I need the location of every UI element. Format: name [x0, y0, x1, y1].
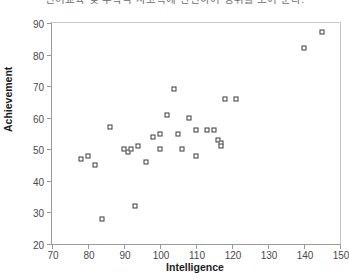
data-point — [233, 96, 238, 101]
x-axis-tick-label: 70 — [47, 250, 58, 261]
y-axis-tick-label: 70 — [33, 82, 44, 93]
data-point — [172, 87, 177, 92]
data-point — [179, 147, 184, 152]
data-point — [204, 128, 209, 133]
y-axis-tick: 40 — [47, 181, 52, 182]
x-axis-tick-label: 150 — [333, 250, 349, 261]
data-point — [158, 131, 163, 136]
data-point — [132, 204, 137, 209]
y-axis-tick: 80 — [47, 55, 52, 56]
data-point — [129, 147, 134, 152]
y-axis-tick: 50 — [47, 149, 52, 150]
x-axis-tick: 80 — [88, 244, 89, 249]
x-axis-tick: 110 — [196, 244, 197, 249]
y-axis-tick-label: 50 — [33, 145, 44, 156]
y-axis-tick: 90 — [47, 23, 52, 24]
x-axis-tick: 100 — [160, 244, 161, 249]
y-axis-tick-label: 30 — [33, 208, 44, 219]
y-axis-tick: 60 — [47, 118, 52, 119]
x-axis-label: Intelligence — [51, 261, 339, 273]
scatter-plot-figure: 언어교육 및 수학적 사고력에 관련하여 성취를 보여 준다. 20304050… — [0, 0, 349, 279]
x-axis-tick-label: 80 — [83, 250, 94, 261]
data-point — [165, 112, 170, 117]
data-point — [93, 163, 98, 168]
data-point — [302, 46, 307, 51]
y-axis-tick-label: 40 — [33, 176, 44, 187]
y-axis-tick-label: 60 — [33, 113, 44, 124]
data-point — [143, 159, 148, 164]
y-axis-tick-label: 90 — [33, 19, 44, 30]
data-point — [222, 96, 227, 101]
y-axis-tick-label: 80 — [33, 50, 44, 61]
data-point — [212, 128, 217, 133]
x-axis-tick-label: 100 — [153, 250, 170, 261]
y-axis-tick: 30 — [47, 212, 52, 213]
x-axis-tick: 70 — [52, 244, 53, 249]
data-point — [219, 144, 224, 149]
x-axis-tick-label: 140 — [297, 250, 314, 261]
x-axis-tick: 90 — [124, 244, 125, 249]
x-axis-tick: 130 — [268, 244, 269, 249]
data-point — [194, 153, 199, 158]
data-point — [78, 156, 83, 161]
data-point — [86, 153, 91, 158]
data-point — [320, 30, 325, 35]
data-point — [136, 144, 141, 149]
data-point — [150, 134, 155, 139]
y-axis-tick-label: 20 — [33, 240, 44, 251]
x-axis-tick: 150 — [340, 244, 341, 249]
data-point — [158, 147, 163, 152]
x-axis-tick: 120 — [232, 244, 233, 249]
data-point — [176, 131, 181, 136]
x-axis-tick-label: 90 — [119, 250, 130, 261]
data-point — [107, 125, 112, 130]
data-point — [100, 216, 105, 221]
x-axis-tick-label: 120 — [225, 250, 242, 261]
data-point — [194, 128, 199, 133]
x-axis-tick-label: 110 — [189, 250, 205, 261]
data-point — [186, 115, 191, 120]
x-axis-tick: 140 — [304, 244, 305, 249]
y-axis-tick: 70 — [47, 86, 52, 87]
figure-caption: 언어교육 및 수학적 사고력에 관련하여 성취를 보여 준다. — [0, 0, 349, 6]
plot-area: 2030405060708090708090100110120130140150 — [51, 22, 341, 245]
x-axis-tick-label: 130 — [261, 250, 278, 261]
y-axis-label: Achievement — [2, 67, 14, 132]
